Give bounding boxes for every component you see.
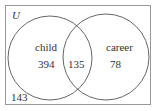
set-label-child: child (35, 41, 57, 53)
child-only-count: 394 (38, 58, 55, 70)
universe-label: U (12, 9, 21, 21)
intersection-count: 135 (68, 58, 85, 70)
career-only-count: 78 (110, 58, 122, 70)
set-label-career: career (106, 41, 133, 53)
venn-diagram: U child 394 career 78 135 143 (0, 0, 153, 111)
outside-count: 143 (11, 91, 28, 103)
